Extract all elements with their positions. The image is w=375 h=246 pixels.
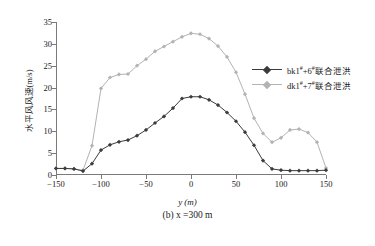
legend-item-2[interactable]: dk1#+7#联合泄洪 — [252, 77, 351, 92]
data-point-marker — [162, 44, 166, 48]
data-point-marker — [198, 32, 202, 36]
data-point-marker — [297, 127, 301, 131]
data-point-marker — [54, 166, 58, 170]
figure-caption: (b) x =300 m — [0, 210, 375, 220]
data-point-marker — [117, 72, 121, 76]
data-point-marker — [306, 169, 310, 173]
series-2 — [54, 31, 328, 172]
x-tick-label: 0 — [189, 180, 193, 189]
data-point-marker — [189, 31, 193, 35]
x-tick-label: 50 — [232, 180, 241, 189]
data-point-marker — [243, 92, 247, 96]
data-point-marker — [126, 138, 130, 142]
data-point-marker — [72, 167, 76, 171]
data-point-marker — [324, 168, 328, 172]
data-point-marker — [171, 40, 175, 44]
y-tick-label: 15 — [44, 105, 53, 114]
y-tick-label: 10 — [44, 127, 53, 136]
data-point-marker — [90, 144, 94, 148]
series-line — [56, 33, 326, 170]
y-tick-label: 25 — [44, 61, 53, 70]
figure: 水平风风速(m/s) 05101520253035 −150−100−50050… — [0, 0, 375, 246]
data-point-marker — [288, 169, 292, 173]
data-point-marker — [297, 169, 301, 173]
y-tick-label: 5 — [48, 149, 52, 158]
x-tick-label: 150 — [320, 180, 333, 189]
legend-swatch-icon — [252, 80, 282, 90]
data-point-marker — [279, 168, 283, 172]
data-point-marker — [117, 140, 121, 144]
data-point-marker — [198, 95, 202, 99]
x-tick-label: −150 — [47, 180, 65, 189]
series-1 — [54, 95, 328, 174]
plot-area: 05101520253035 −150−100−50050100150 — [56, 22, 326, 175]
y-tick-label: 35 — [44, 18, 53, 27]
legend-swatch-icon — [252, 65, 282, 75]
data-point-marker — [189, 95, 193, 99]
x-axis-title: y (m) — [0, 197, 375, 207]
legend-label: dk1#+7#联合泄洪 — [287, 76, 351, 94]
x-tick-label: −100 — [92, 180, 110, 189]
y-tick-label: 20 — [44, 83, 53, 92]
data-point-marker — [180, 35, 184, 39]
figure-caption-text: (b) x =300 m — [163, 210, 213, 220]
data-point-marker — [234, 70, 238, 74]
data-point-marker — [63, 166, 67, 170]
y-tick-label: 0 — [48, 171, 52, 180]
x-tick-label: −50 — [139, 180, 152, 189]
data-point-marker — [315, 169, 319, 173]
series-layer — [56, 22, 326, 175]
x-tick-label: 100 — [275, 180, 288, 189]
data-point-marker — [252, 116, 256, 120]
x-axis-title-text: y (m) — [178, 197, 197, 207]
y-axis-title: 水平风风速(m/s) — [22, 26, 34, 176]
data-point-marker — [108, 143, 112, 147]
data-point-marker — [207, 98, 211, 102]
legend: bk1#+6#联合泄洪dk1#+7#联合泄洪 — [252, 62, 351, 92]
y-tick-label: 30 — [44, 40, 53, 49]
